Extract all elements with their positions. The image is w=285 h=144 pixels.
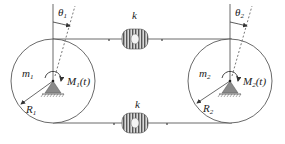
disk-right [188, 4, 272, 123]
pivot-left [52, 80, 55, 83]
theta2-label: θ2 [235, 6, 244, 20]
spring-bottom-label: k [135, 98, 141, 110]
spring-top-label: k [132, 9, 138, 21]
disk-left [11, 4, 95, 123]
bottom-spring [122, 113, 148, 133]
angle-arrow-right [230, 22, 247, 26]
pivot-right [229, 80, 232, 83]
theta1-label: θ1 [58, 6, 67, 20]
top-spring [122, 29, 148, 49]
angle-arrow-left [53, 22, 70, 26]
two-disk-spring-diagram: k k θ1 m1 M1(t) [0, 0, 285, 144]
